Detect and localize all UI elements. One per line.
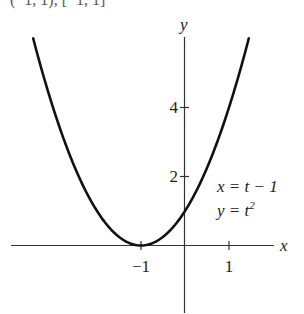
y-tick-label-4: 4 (170, 98, 179, 117)
equation-x: x = t − 1 (216, 177, 278, 196)
parametric-plot: −1 1 2 4 x y x = t − 1 y = t2 (0, 0, 304, 314)
y-tick-label-2: 2 (170, 167, 179, 186)
x-tick-label-neg1: −1 (132, 257, 150, 276)
x-tick-label-1: 1 (225, 257, 234, 276)
y-axis-label: y (178, 15, 188, 34)
equation-y: y = t2 (215, 199, 255, 220)
x-axis-label: x (279, 236, 288, 255)
